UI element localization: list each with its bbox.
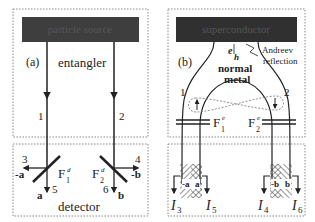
- particle-source-label: particle source: [48, 23, 113, 35]
- current-i6-arrow: [292, 176, 298, 193]
- svg-text:h: h: [234, 52, 239, 62]
- svg-text:1: 1: [66, 176, 70, 185]
- filter-f2d-label: F d 2: [92, 166, 105, 185]
- svg-text:I: I: [205, 198, 212, 213]
- entangler-label: entangler: [58, 55, 107, 70]
- svg-text:5: 5: [212, 205, 217, 215]
- svg-text:I: I: [291, 198, 298, 213]
- andreev-label-2: reflection: [263, 56, 298, 66]
- detector-b: -b b: [270, 164, 292, 198]
- panel-b-tag: (b): [178, 55, 192, 69]
- plus-a-label-b: a: [195, 179, 200, 189]
- svg-text:F: F: [213, 115, 220, 130]
- minus-b-label-b: -b: [271, 179, 279, 189]
- minus-a-label-b: -a: [182, 179, 190, 189]
- detector-label: detector: [58, 199, 101, 214]
- svg-text:F: F: [92, 166, 99, 181]
- output-4-label: 4: [135, 153, 141, 165]
- svg-text:F: F: [248, 115, 255, 130]
- svg-text:1: 1: [221, 125, 225, 134]
- minus-b-label: -b: [131, 168, 141, 180]
- panel-a-tag: (a): [26, 55, 39, 69]
- current-i4-label: I 4: [257, 198, 269, 215]
- metal-label: metal: [224, 73, 250, 85]
- lead-2-label-b: 2: [284, 86, 290, 98]
- svg-text:I: I: [257, 198, 264, 213]
- lead-1-label-b: 1: [180, 86, 186, 98]
- svg-text:6: 6: [298, 205, 303, 215]
- spin-loop-1: [189, 96, 284, 112]
- minus-a-label: -a: [15, 168, 25, 180]
- svg-text:d: d: [101, 166, 105, 174]
- svg-text:e: e: [257, 114, 260, 122]
- current-i5-arrow: [202, 176, 207, 193]
- current-i3-label: I 3: [170, 198, 182, 215]
- plus-b-label: b: [118, 189, 124, 201]
- svg-text:I: I: [170, 198, 177, 213]
- current-i6-label: I 6: [291, 198, 303, 215]
- andreev-pointer: [246, 44, 258, 56]
- diagram-canvas: particle source (a) entangler 1 2 3 -a a…: [0, 0, 315, 222]
- andreev-label-1: Andreev: [262, 45, 293, 55]
- plus-b-label-b: b: [285, 179, 290, 189]
- filter-f2e-label: F e 2: [248, 114, 260, 134]
- spin-filter-1: [176, 120, 210, 124]
- spin-filter-2: [262, 120, 296, 124]
- detector-a: -a a: [180, 164, 202, 198]
- inner-arch: [200, 80, 272, 184]
- svg-text:2: 2: [100, 176, 104, 185]
- lead-1-label: 1: [38, 110, 44, 122]
- output-5-label: 5: [52, 183, 58, 195]
- lead-2-label: 2: [119, 110, 125, 122]
- panel-b: superconductor (b) e h Andreev reflectio…: [168, 9, 305, 216]
- current-i5-label: I 5: [205, 198, 217, 215]
- electron-hole-label: e h: [228, 44, 239, 62]
- filter-f1d-label: F d 1: [58, 166, 71, 185]
- current-i3-arrow: [174, 176, 180, 193]
- current-i4-arrow: [264, 176, 270, 193]
- svg-text:F: F: [58, 166, 65, 181]
- svg-text:3: 3: [177, 205, 182, 215]
- filter-f1e-label: F e 1: [213, 114, 225, 134]
- plus-a-label: a: [37, 189, 43, 201]
- svg-text:d: d: [67, 166, 71, 174]
- panel-a: particle source (a) entangler 1 2 3 -a a…: [13, 9, 148, 216]
- svg-text:4: 4: [264, 205, 269, 215]
- svg-text:e: e: [222, 114, 225, 122]
- output-3-label: 3: [22, 153, 28, 165]
- superconductor-label: superconductor: [202, 23, 270, 35]
- svg-text:e: e: [228, 45, 233, 56]
- svg-text:2: 2: [256, 125, 260, 134]
